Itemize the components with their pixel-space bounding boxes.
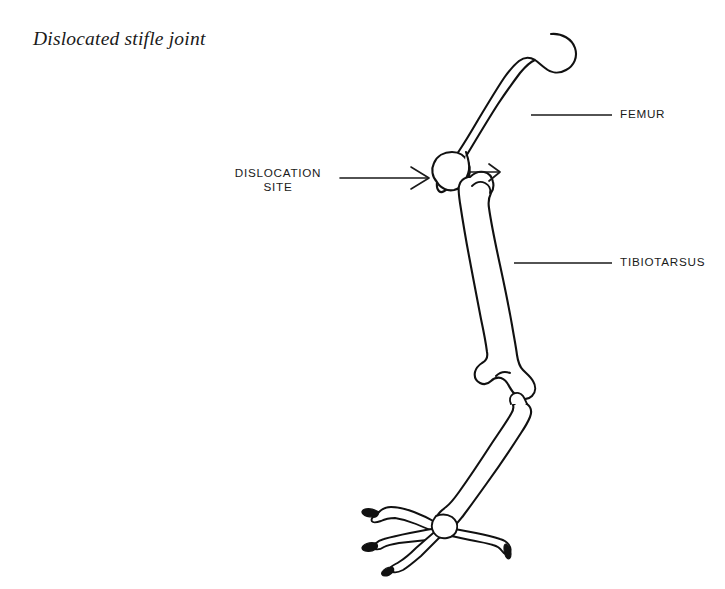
figure-canvas: Dislocated stifle joint [0, 0, 725, 589]
toe-upper-left [372, 507, 438, 532]
label-dislocation-site-line1: DISLOCATION [222, 166, 334, 180]
tarsometatarsus-outline [435, 402, 531, 530]
foot-center [432, 515, 458, 539]
femur-bone [432, 34, 576, 192]
dislocation-arrow-main [340, 167, 429, 189]
tarsometatarsus-bone [435, 393, 531, 530]
claw-upper-left [362, 509, 379, 518]
label-dislocation-site-line2: SITE [222, 180, 334, 194]
tibiotarsus-bone [459, 172, 536, 399]
tibiotarsus-outline [459, 172, 536, 399]
anatomy-illustration [0, 0, 725, 589]
label-tibiotarsus: TIBIOTARSUS [620, 255, 705, 268]
foot-toes [362, 507, 511, 576]
claw-lower-left [382, 567, 394, 576]
label-femur: FEMUR [620, 107, 665, 120]
claw-mid-left [362, 543, 378, 552]
label-dislocation-site: DISLOCATION SITE [222, 166, 334, 193]
